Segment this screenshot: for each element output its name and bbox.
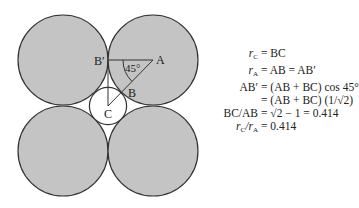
eq-subscript: C bbox=[253, 53, 258, 61]
equation-rhs: = 0.414 bbox=[261, 120, 296, 137]
equation-rhs: = AB = AB′ bbox=[261, 64, 316, 81]
label-angle-45: 45° bbox=[125, 62, 140, 74]
eq-symbol-slash-r: /r bbox=[245, 120, 253, 132]
equation-rc: rC = BC bbox=[198, 47, 359, 64]
label-B-prime: B′ bbox=[94, 54, 105, 68]
equation-lhs: BC/AB bbox=[198, 107, 261, 120]
circle-packing-diagram: A B′ B C 45° bbox=[0, 0, 200, 208]
eq-subscript: A bbox=[253, 70, 258, 78]
equation-ab-prime-cont: = (AB + BC) (1/√2) bbox=[198, 94, 359, 107]
equation-rhs: = BC bbox=[261, 47, 286, 64]
equations-block: rC = BC rA = AB = AB′ AB′ = (AB + BC) co… bbox=[198, 47, 359, 137]
label-C: C bbox=[104, 107, 112, 121]
equation-rhs: = √2 − 1 = 0.414 bbox=[261, 107, 339, 120]
equation-rhs: = (AB + BC) cos 45° bbox=[261, 81, 359, 94]
equation-lhs bbox=[198, 94, 261, 107]
eq-subscript: A bbox=[253, 126, 258, 134]
equation-rhs: = (AB + BC) (1/√2) bbox=[261, 94, 353, 107]
equation-ab-prime: AB′ = (AB + BC) cos 45° bbox=[198, 81, 359, 94]
equation-ratio: rC/rA = 0.414 bbox=[198, 120, 359, 137]
label-A: A bbox=[156, 53, 165, 67]
label-B: B bbox=[128, 86, 136, 100]
equation-lhs: AB′ bbox=[198, 81, 261, 94]
equation-ra: rA = AB = AB′ bbox=[198, 64, 359, 81]
equation-bc-ab: BC/AB = √2 − 1 = 0.414 bbox=[198, 107, 359, 120]
